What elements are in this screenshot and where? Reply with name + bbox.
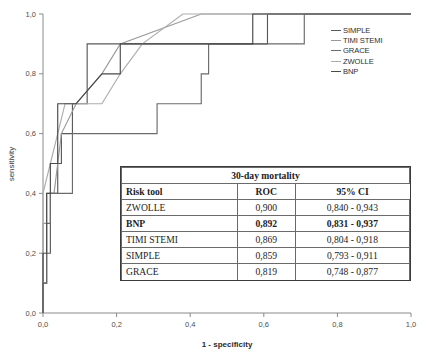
table-row: SIMPLE0,8590,793 - 0,911 [122, 248, 410, 264]
x-axis-title: 1 - specificity [202, 340, 253, 349]
table-row: TIMI STEMI0,8690,804 - 0,918 [122, 232, 410, 248]
mortality-stats-table: 30-day mortalityRisk toolROC95% CIZWOLLE… [120, 166, 411, 281]
table-title-row: 30-day mortality [122, 168, 410, 184]
cell-confidence-interval: 0,831 - 0,937 [295, 216, 409, 232]
y-tick-label: 0,6 [26, 129, 36, 138]
x-tick-label: 1,0 [406, 320, 416, 329]
cell-risk-tool: BNP [122, 216, 238, 232]
cell-risk-tool: TIMI STEMI [122, 232, 238, 248]
column-header-95-ci: 95% CI [295, 184, 409, 200]
table-row: BNP0,8920,831 - 0,937 [122, 216, 410, 232]
legend-line-swatch-icon [331, 30, 341, 31]
x-tick-label: 0,2 [111, 320, 121, 329]
y-tick-label: 0,4 [26, 189, 36, 198]
legend-line-swatch-icon [331, 40, 341, 41]
chart-legend: SIMPLETIMI STEMIGRACEZWOLLEBNP [331, 25, 427, 77]
legend-item-timi-stemi[interactable]: TIMI STEMI [331, 35, 427, 45]
legend-line-swatch-icon [331, 61, 341, 62]
y-tick-label: 1,0 [26, 10, 36, 19]
column-header-roc: ROC [237, 184, 295, 200]
cell-roc-value: 0,859 [237, 248, 295, 264]
legend-item-label: GRACE [343, 46, 370, 55]
y-axis-title: sensitivity [7, 147, 16, 182]
x-tick-label: 0,0 [38, 320, 48, 329]
roc-figure: 0,00,20,40,60,81,00,00,20,40,60,81,0 1 -… [0, 0, 429, 361]
legend-line-swatch-icon [331, 50, 341, 51]
cell-risk-tool: GRACE [122, 264, 238, 280]
legend-item-label: ZWOLLE [343, 57, 374, 66]
legend-item-label: SIMPLE [343, 26, 370, 35]
x-tick-label: 0,6 [259, 320, 269, 329]
legend-item-grace[interactable]: GRACE [331, 46, 427, 56]
y-tick-label: 0,8 [26, 69, 36, 78]
x-tick-label: 0,4 [185, 320, 195, 329]
legend-line-swatch-icon [331, 71, 341, 72]
cell-roc-value: 0,892 [237, 216, 295, 232]
table-row: ZWOLLE0,9000,840 - 0,943 [122, 200, 410, 216]
cell-roc-value: 0,819 [237, 264, 295, 280]
legend-item-zwolle[interactable]: ZWOLLE [331, 56, 427, 66]
cell-confidence-interval: 0,793 - 0,911 [295, 248, 409, 264]
table-header-row: Risk toolROC95% CI [122, 184, 410, 200]
legend-item-bnp[interactable]: BNP [331, 67, 427, 77]
cell-confidence-interval: 0,804 - 0,918 [295, 232, 409, 248]
cell-risk-tool: SIMPLE [122, 248, 238, 264]
table-title: 30-day mortality [122, 168, 410, 184]
cell-risk-tool: ZWOLLE [122, 200, 238, 216]
y-tick-label: 0,0 [26, 309, 36, 318]
legend-item-simple[interactable]: SIMPLE [331, 25, 427, 35]
cell-roc-value: 0,900 [237, 200, 295, 216]
column-header-risk-tool: Risk tool [122, 184, 238, 200]
cell-confidence-interval: 0,748 - 0,877 [295, 264, 409, 280]
table-row: GRACE0,8190,748 - 0,877 [122, 264, 410, 280]
y-tick-label: 0,2 [26, 249, 36, 258]
cell-confidence-interval: 0,840 - 0,943 [295, 200, 409, 216]
legend-item-label: TIMI STEMI [343, 36, 383, 45]
x-tick-label: 0,8 [332, 320, 342, 329]
cell-roc-value: 0,869 [237, 232, 295, 248]
legend-item-label: BNP [343, 67, 358, 76]
